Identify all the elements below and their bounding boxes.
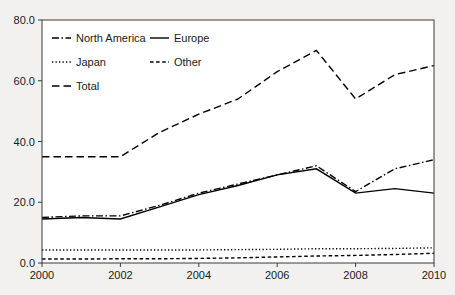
x-axis-tick-label: 2000 <box>30 269 54 281</box>
y-axis-tick-label: 80.0 <box>14 14 35 26</box>
legend-label-other: Other <box>174 56 202 68</box>
legend-label-total: Total <box>76 80 99 92</box>
y-axis-tick-label: 0.0 <box>20 257 35 269</box>
y-axis-tick-label: 40.0 <box>14 136 35 148</box>
legend-label-north-america: North America <box>76 32 147 44</box>
x-axis-tick-label: 2006 <box>265 269 289 281</box>
x-axis-tick-label: 2002 <box>108 269 132 281</box>
legend-label-japan: Japan <box>76 56 106 68</box>
y-axis-tick-label: 20.0 <box>14 196 35 208</box>
x-axis-tick-label: 2010 <box>422 269 446 281</box>
chart-container: 0.020.040.060.080.0 20002002200420062008… <box>0 0 455 295</box>
legend-label-europe: Europe <box>174 32 209 44</box>
y-axis-tick-label: 60.0 <box>14 75 35 87</box>
line-chart: 0.020.040.060.080.0 20002002200420062008… <box>0 0 455 295</box>
x-axis-tick-label: 2008 <box>343 269 367 281</box>
x-axis-tick-label: 2004 <box>187 269 211 281</box>
